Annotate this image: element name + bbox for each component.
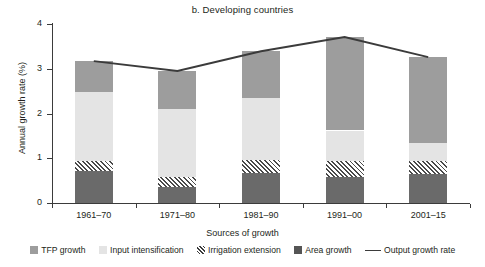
y-axis-tick-label: 3: [0, 64, 42, 73]
legend-item-label: Input intensification: [110, 245, 184, 255]
bar-segment-input-intensification: [242, 98, 280, 161]
legend-item-output-growth-rate[interactable]: Output growth rate: [365, 245, 456, 255]
y-axis-tick-mark: [47, 158, 52, 159]
bar-segment-tfp-growth: [75, 61, 113, 92]
bar-1981–90: [242, 24, 280, 203]
bar-segment-area-growth: [75, 171, 113, 203]
square-medium-gray-icon: [30, 246, 38, 254]
bar-segment-area-growth: [242, 173, 280, 203]
y-axis-tick-mark: [47, 24, 52, 25]
bar-segment-irrigation-extension: [158, 177, 196, 187]
y-axis-tick-mark: [47, 114, 52, 115]
y-axis-tick-label: 1: [0, 153, 42, 162]
bar-segment-input-intensification: [409, 143, 447, 161]
bar-segment-tfp-growth: [242, 51, 280, 98]
x-axis-line: [52, 203, 470, 204]
y-axis-tick-label: 2: [0, 109, 42, 118]
x-axis-tick-mark: [219, 204, 220, 208]
bar-segment-irrigation-extension: [242, 160, 280, 173]
bar-1991–00: [326, 24, 364, 203]
legend-item-label: Irrigation extension: [208, 245, 281, 255]
legend-item-label: Area growth: [305, 245, 351, 255]
line-segment-icon: [365, 250, 381, 251]
square-dark-gray-icon: [294, 246, 302, 254]
bar-segment-area-growth: [326, 177, 364, 203]
x-axis-tick-mark: [386, 204, 387, 208]
y-axis-tick-label: 0: [0, 198, 42, 207]
x-axis-tick-mark: [136, 204, 137, 208]
bar-segment-area-growth: [158, 187, 196, 203]
bar-1971–80: [158, 24, 196, 203]
bar-segment-input-intensification: [326, 131, 364, 162]
x-axis-tick-mark: [303, 204, 304, 208]
plot-area: Annual growth rate (%) Sources of growth…: [0, 0, 485, 267]
y-axis-line: [52, 23, 53, 204]
chart-legend: TFP growthInput intensificationIrrigatio…: [0, 245, 485, 255]
chart-figure: b. Developing countries Annual growth ra…: [0, 0, 485, 267]
x-axis-tick-label: 1991–00: [300, 210, 390, 220]
bar-segment-tfp-growth: [158, 71, 196, 109]
bar-segment-input-intensification: [75, 92, 113, 161]
bar-segment-irrigation-extension: [75, 161, 113, 170]
x-axis-tick-label: 1971–80: [132, 210, 222, 220]
x-axis-title: Sources of growth: [0, 228, 485, 238]
x-axis-tick-mark: [52, 204, 53, 208]
legend-item-area-growth[interactable]: Area growth: [294, 245, 352, 255]
x-axis-tick-label: 1981–90: [216, 210, 306, 220]
legend-item-label: TFP growth: [41, 245, 85, 255]
legend-item-irrigation-extension[interactable]: Irrigation extension: [197, 245, 281, 255]
y-axis-tick-mark: [47, 69, 52, 70]
square-hatched-icon: [197, 246, 205, 254]
bar-1961–70: [75, 24, 113, 203]
bar-segment-tfp-growth: [326, 37, 364, 131]
x-axis-tick-label: 1961–70: [49, 210, 139, 220]
bar-segment-irrigation-extension: [326, 161, 364, 177]
bar-segment-tfp-growth: [409, 57, 447, 142]
bar-2001–15: [409, 24, 447, 203]
y-axis-tick-label: 4: [0, 19, 42, 28]
legend-item-input-intensification[interactable]: Input intensification: [99, 245, 184, 255]
bar-segment-area-growth: [409, 174, 447, 203]
x-axis-tick-mark: [470, 204, 471, 208]
x-axis-tick-label: 2001–15: [383, 210, 473, 220]
legend-item-tfp-growth[interactable]: TFP growth: [30, 245, 86, 255]
bar-segment-input-intensification: [158, 109, 196, 177]
legend-item-label: Output growth rate: [384, 245, 455, 255]
bar-segment-irrigation-extension: [409, 161, 447, 174]
square-light-gray-icon: [99, 246, 107, 254]
